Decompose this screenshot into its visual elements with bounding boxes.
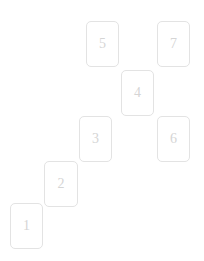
card-label: 6 bbox=[170, 132, 177, 146]
card-5[interactable]: 5 bbox=[86, 21, 119, 67]
card-label: 1 bbox=[23, 219, 30, 233]
card-3[interactable]: 3 bbox=[79, 116, 112, 162]
card-7[interactable]: 7 bbox=[157, 21, 190, 67]
card-1[interactable]: 1 bbox=[10, 203, 43, 249]
card-board: 1234567 bbox=[0, 0, 204, 261]
card-label: 5 bbox=[99, 37, 106, 51]
card-label: 4 bbox=[134, 86, 141, 100]
card-label: 3 bbox=[92, 132, 99, 146]
card-6[interactable]: 6 bbox=[157, 116, 190, 162]
card-label: 7 bbox=[170, 37, 177, 51]
card-4[interactable]: 4 bbox=[121, 70, 154, 116]
card-label: 2 bbox=[58, 177, 65, 191]
card-2[interactable]: 2 bbox=[44, 161, 78, 207]
